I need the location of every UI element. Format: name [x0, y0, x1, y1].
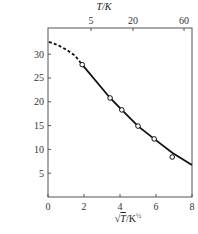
x-tick-label: 8	[190, 201, 195, 212]
top-tick-label: 60	[179, 15, 189, 26]
y-tick-label: 10	[34, 144, 44, 155]
plot-frame	[48, 28, 192, 197]
top-axis-ticks: 52060	[89, 15, 190, 31]
y-tick-label: 20	[34, 96, 44, 107]
data-point	[80, 62, 85, 67]
top-tick-label: 20	[128, 15, 138, 26]
y-tick-label: 30	[34, 49, 44, 60]
y-tick-label: 25	[34, 72, 44, 83]
data-point	[152, 137, 157, 142]
x-tick-label: 2	[82, 201, 87, 212]
x-axis-title: √T/K½	[115, 212, 141, 224]
data-point	[120, 108, 125, 113]
x-tick-label: 4	[118, 201, 123, 212]
x-tick-label: 0	[46, 201, 51, 212]
y-tick-label: 15	[34, 120, 44, 131]
data-point	[136, 124, 141, 129]
x-tick-label: 6	[154, 201, 159, 212]
y-axis-title: 0 Hc /(× 10³4π kA/m)	[16, 185, 40, 234]
top-tick-label: 5	[89, 15, 94, 26]
data-point	[108, 96, 113, 101]
data-markers	[80, 62, 175, 159]
dashed-extrapolation-line	[49, 42, 82, 65]
solid-fit-line	[82, 65, 192, 165]
top-axis-title: T/K	[96, 1, 112, 12]
y-tick-label: 5	[39, 168, 44, 179]
data-point	[170, 155, 175, 160]
